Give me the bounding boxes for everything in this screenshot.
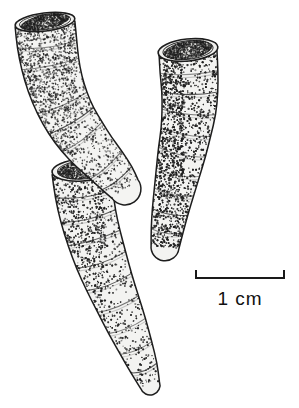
scale-bar-label: 1 cm xyxy=(217,288,262,309)
specimen-illustration: 1 cm xyxy=(0,0,299,408)
figure-container: 1 cm xyxy=(0,0,299,408)
